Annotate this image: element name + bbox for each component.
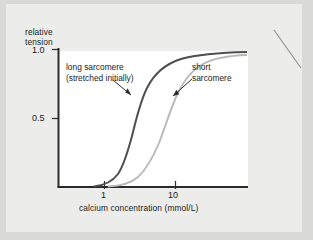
y-axis-label: relative tension — [25, 27, 53, 47]
x-tick-label-10: 10 — [168, 190, 178, 200]
series-label-long-sarcomere: long sarcomere (stretched initially) — [66, 62, 134, 83]
figure-page: relative tension calcium concentration (… — [0, 0, 313, 240]
calcium-tension-chart: relative tension calcium concentration (… — [0, 0, 313, 240]
y-tick-label-1.0: 1.0 — [32, 45, 45, 55]
x-tick-label-1: 1 — [101, 190, 106, 200]
arrow-long-sarcomere-head — [125, 88, 131, 95]
series-label-short-line1: short — [192, 62, 211, 72]
series-label-short-sarcomere: short sarcomere — [192, 62, 232, 83]
x-axis-label: calcium concentration (mmol/L) — [79, 203, 198, 213]
series-label-short-line2: sarcomere — [192, 73, 232, 83]
series-label-long-line1: long sarcomere — [66, 62, 124, 72]
y-tick-label-0.5: 0.5 — [32, 113, 45, 123]
y-axis-label-line1: relative — [25, 27, 53, 37]
series-label-long-line2: (stretched initially) — [66, 73, 134, 83]
